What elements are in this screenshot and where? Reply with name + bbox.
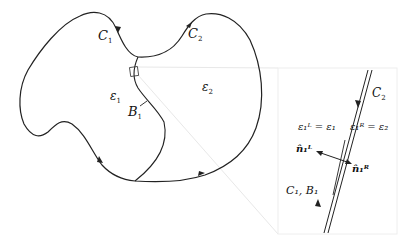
inset-arrow-c2-icon (355, 100, 361, 108)
inset-eq-left: ε₁ᴸ = ε₁ (298, 121, 336, 132)
label-eps1: ε1 (110, 89, 121, 105)
inset-n-right: n̂₁ᴿ (352, 163, 369, 174)
inset-eq-right: ε₁ᴿ = ε₂ (350, 121, 388, 132)
inset-c1b1: C₁, B₁ (286, 184, 318, 197)
normal-arrow-right-icon (345, 159, 352, 164)
label-b1: B1 (127, 104, 142, 121)
zoom-connector-lines (138, 67, 397, 234)
b1-leader-line (140, 101, 147, 106)
arrow-left-bottom-icon (97, 156, 103, 163)
inset-middle-line (333, 140, 345, 195)
label-c1: C1 (98, 28, 112, 45)
inset-n-left: n̂₁ᴸ (296, 143, 313, 154)
normal-arrow-left-icon (316, 151, 323, 156)
label-c2: C2 (188, 26, 202, 43)
label-eps2: ε2 (202, 80, 213, 96)
inset-label-c2: C2 (372, 86, 386, 102)
arrow-c1-icon (115, 26, 121, 33)
inset-interface-lines (324, 70, 372, 233)
diagram-canvas: C1 C2 ε1 ε2 B1 C2 ε₁ᴸ = ε₁ ε₁ᴿ = ε₂ n̂₁ᴸ… (0, 0, 413, 249)
inset-arrow-c1b1-icon (315, 199, 321, 207)
outer-boundary-curve (20, 12, 262, 181)
